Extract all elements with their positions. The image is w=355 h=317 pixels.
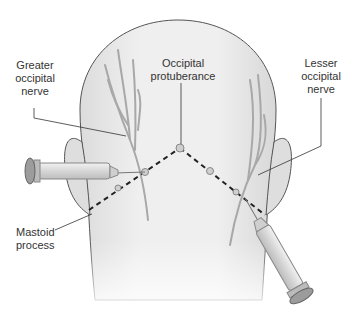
label-line: occipital xyxy=(12,72,58,85)
label-line: Occipital xyxy=(145,57,221,70)
diagram-canvas xyxy=(0,0,355,317)
label-line: nerve xyxy=(12,85,58,98)
label-line: nerve xyxy=(298,83,344,96)
label-lesser-occipital-nerve: Lesser occipital nerve xyxy=(298,57,344,96)
label-line: process xyxy=(16,239,66,252)
label-line: Mastoid xyxy=(16,226,66,239)
label-line: occipital xyxy=(298,70,344,83)
label-greater-occipital-nerve: Greater occipital nerve xyxy=(12,59,58,98)
label-line: protuberance xyxy=(145,70,221,83)
label-line: Greater xyxy=(12,59,58,72)
label-occipital-protuberance: Occipital protuberance xyxy=(145,57,221,83)
label-mastoid-process: Mastoid process xyxy=(16,226,66,252)
label-line: Lesser xyxy=(298,57,344,70)
